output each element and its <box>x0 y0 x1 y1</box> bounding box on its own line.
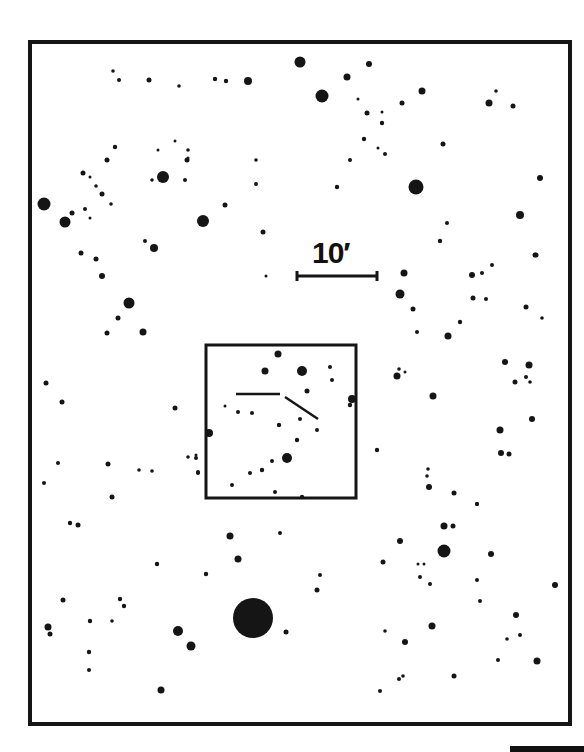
star <box>480 271 484 275</box>
star <box>471 296 476 301</box>
star <box>150 244 158 252</box>
star <box>316 90 329 103</box>
star <box>430 393 437 400</box>
star <box>155 562 159 566</box>
star <box>150 178 154 182</box>
star <box>404 371 407 374</box>
star <box>445 221 449 225</box>
star <box>526 362 533 369</box>
star <box>60 217 71 228</box>
star <box>513 380 518 385</box>
star <box>183 178 187 182</box>
star <box>275 351 282 358</box>
star <box>270 459 274 463</box>
star <box>227 533 234 540</box>
star <box>262 368 269 375</box>
star <box>295 438 299 442</box>
star <box>365 111 370 116</box>
star <box>419 88 426 95</box>
star <box>99 273 105 279</box>
star <box>529 416 535 422</box>
star <box>380 121 384 125</box>
star <box>277 423 281 427</box>
star <box>438 545 451 558</box>
star <box>118 597 122 601</box>
star <box>516 211 524 219</box>
star <box>397 367 401 371</box>
star <box>411 307 416 312</box>
star <box>68 521 72 525</box>
star <box>425 474 429 478</box>
star <box>445 333 452 340</box>
star <box>260 468 264 472</box>
star <box>284 630 289 635</box>
star <box>224 405 227 408</box>
star <box>244 77 252 85</box>
star <box>426 467 430 471</box>
star <box>381 111 384 114</box>
star <box>315 588 320 593</box>
star <box>348 158 352 162</box>
star <box>381 560 386 565</box>
star <box>224 79 228 83</box>
star <box>328 365 332 369</box>
star <box>282 453 292 463</box>
star <box>105 158 110 163</box>
star <box>38 198 51 211</box>
star <box>305 389 310 394</box>
star <box>348 403 352 407</box>
star <box>223 203 228 208</box>
star <box>511 104 516 109</box>
star <box>537 175 543 181</box>
star <box>375 448 379 452</box>
star <box>87 668 91 672</box>
star <box>362 137 366 141</box>
star <box>140 329 147 336</box>
star <box>94 184 98 188</box>
star <box>330 378 334 382</box>
star <box>383 629 387 633</box>
star <box>401 270 408 277</box>
star <box>400 101 405 106</box>
star <box>490 263 494 267</box>
star <box>335 185 339 189</box>
star <box>173 626 183 636</box>
star <box>315 428 319 432</box>
star <box>295 57 306 68</box>
star <box>117 78 121 82</box>
star <box>409 180 424 195</box>
star <box>378 689 382 693</box>
star <box>507 452 512 457</box>
star <box>185 158 190 163</box>
star <box>426 484 432 490</box>
scale-bar <box>297 271 377 281</box>
star <box>534 658 541 665</box>
star <box>488 551 494 557</box>
star <box>513 612 519 618</box>
star <box>502 359 508 365</box>
star <box>417 563 420 566</box>
star <box>186 455 190 459</box>
star <box>528 380 532 384</box>
star <box>498 450 504 456</box>
star <box>204 572 208 576</box>
star <box>248 471 252 475</box>
stars-layer <box>38 57 559 694</box>
star <box>429 623 436 630</box>
star <box>318 573 322 577</box>
star <box>110 495 115 500</box>
star <box>438 239 442 243</box>
star <box>147 78 152 83</box>
star <box>254 182 258 186</box>
star <box>552 582 558 588</box>
star <box>397 538 403 544</box>
star <box>70 211 75 216</box>
star <box>397 677 401 681</box>
star <box>344 74 351 81</box>
star <box>428 582 432 586</box>
star <box>469 272 475 278</box>
star <box>230 483 234 487</box>
star <box>213 77 217 81</box>
star <box>377 147 380 150</box>
star <box>415 330 419 334</box>
